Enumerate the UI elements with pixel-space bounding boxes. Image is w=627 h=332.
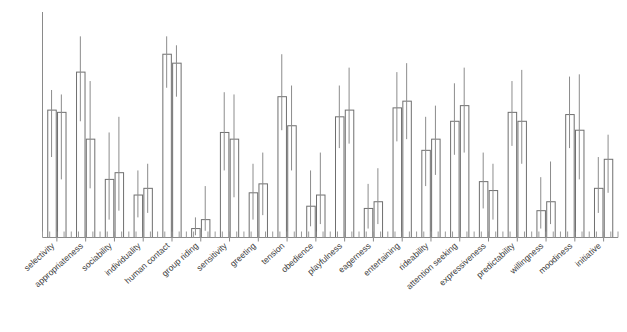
chart-container: selectivityappropriatenesssociabilityind…	[0, 0, 627, 332]
bar-chart-with-error-bars: selectivityappropriatenesssociabilityind…	[0, 0, 627, 332]
x-axis-tick-label: greeting	[228, 240, 258, 268]
x-axis-tick-labels: selectivityappropriatenesssociabilityind…	[22, 240, 603, 291]
x-axis-ticks	[43, 232, 619, 242]
x-axis-tick-label: attention seeking	[404, 240, 459, 291]
x-axis-tick-label: tension	[259, 240, 286, 266]
x-axis-tick-label: sensitivity	[195, 240, 230, 273]
x-axis-tick-label: initiative	[573, 240, 603, 268]
axes-group	[43, 12, 619, 242]
bar-series-group	[48, 36, 613, 237]
